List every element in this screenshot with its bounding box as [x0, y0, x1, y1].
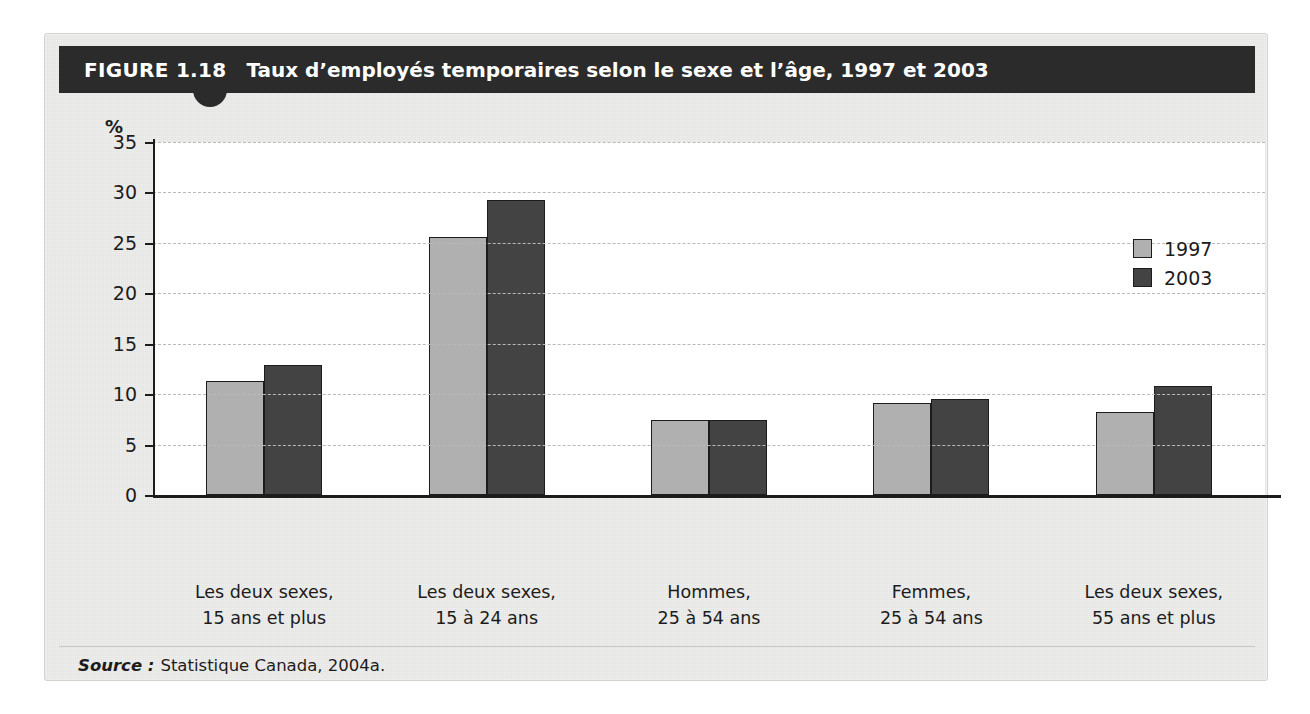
x-axis-label-line: Les deux sexes,: [1034, 579, 1274, 605]
y-axis-tick-label: 25: [89, 232, 137, 254]
source-divider: [59, 646, 1255, 647]
gridline: [153, 293, 1265, 294]
bar-2003-2: [709, 420, 767, 495]
y-axis-tick-label: 35: [89, 131, 137, 153]
y-axis-tick-label: 15: [89, 333, 137, 355]
figure-title: Taux d’employés temporaires selon le sex…: [246, 58, 988, 82]
y-axis-tick-label: 30: [89, 181, 137, 203]
legend-label: 2003: [1164, 267, 1212, 289]
figure-number-label: FIGURE 1.18: [84, 58, 226, 82]
gridline: [153, 344, 1265, 345]
chart-area: % 05101520253035 Les deux sexes,15 ans e…: [59, 109, 1255, 636]
gridline: [153, 243, 1265, 244]
gridline: [153, 445, 1265, 446]
y-axis-tick-label: 0: [89, 484, 137, 506]
bar-2003-4: [1154, 386, 1212, 495]
source-text: Statistique Canada, 2004a.: [160, 656, 385, 675]
x-axis-label-line: Les deux sexes,: [144, 579, 384, 605]
x-axis-label-line: Femmes,: [811, 579, 1051, 605]
bar-1997-2: [651, 420, 709, 495]
y-axis-line: [153, 139, 155, 498]
y-axis-tick-label: 5: [89, 434, 137, 456]
bar-1997-0: [206, 381, 264, 495]
legend-label: 1997: [1164, 238, 1212, 260]
x-axis-label-line: 15 à 24 ans: [367, 605, 607, 631]
x-axis-label-line: Les deux sexes,: [367, 579, 607, 605]
x-axis-category-labels: Les deux sexes,15 ans et plusLes deux se…: [59, 579, 1255, 639]
x-axis-label-0: Les deux sexes,15 ans et plus: [144, 579, 384, 631]
bar-1997-1: [429, 237, 487, 495]
legend-item-1997[interactable]: 1997: [1133, 234, 1212, 263]
bar-1997-4: [1096, 412, 1154, 495]
bar-1997-3: [873, 403, 931, 495]
x-axis-label-line: 25 à 54 ans: [811, 605, 1051, 631]
chart-legend: 19972003: [1133, 234, 1212, 292]
legend-swatch-icon: [1133, 239, 1152, 258]
bar-2003-3: [931, 399, 989, 495]
gridline: [153, 142, 1265, 143]
figure-panel: FIGURE 1.18 Taux d’employés temporaires …: [44, 33, 1268, 681]
x-axis-label-line: 25 à 54 ans: [589, 605, 829, 631]
x-axis-line: [153, 495, 1281, 498]
y-axis-tick-label: 10: [89, 383, 137, 405]
bar-2003-0: [264, 365, 322, 495]
x-axis-label-line: 15 ans et plus: [144, 605, 384, 631]
x-axis-label-line: Hommes,: [589, 579, 829, 605]
y-axis-tick-label: 20: [89, 282, 137, 304]
figure-page: FIGURE 1.18 Taux d’employés temporaires …: [0, 0, 1310, 714]
legend-item-2003[interactable]: 2003: [1133, 263, 1212, 292]
figure-title-bar: FIGURE 1.18 Taux d’employés temporaires …: [59, 46, 1255, 93]
bars-layer: [153, 142, 1265, 495]
source-label: Source :: [78, 656, 154, 675]
gridline: [153, 192, 1265, 193]
gridline: [153, 394, 1265, 395]
x-axis-label-3: Femmes,25 à 54 ans: [811, 579, 1051, 631]
source-note: Source :Statistique Canada, 2004a.: [78, 656, 385, 675]
title-notch-decoration: [193, 90, 227, 107]
plot-area: [153, 142, 1265, 495]
x-axis-label-2: Hommes,25 à 54 ans: [589, 579, 829, 631]
legend-swatch-icon: [1133, 268, 1152, 287]
x-axis-label-4: Les deux sexes,55 ans et plus: [1034, 579, 1274, 631]
x-axis-label-1: Les deux sexes,15 à 24 ans: [367, 579, 607, 631]
x-axis-label-line: 55 ans et plus: [1034, 605, 1274, 631]
